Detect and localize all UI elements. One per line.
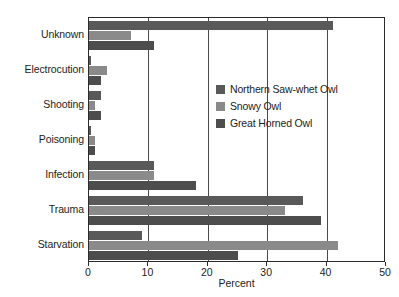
bar-group	[89, 193, 384, 228]
x-axis-ticks: 01020304050	[88, 262, 385, 278]
bar	[89, 56, 91, 65]
bar	[89, 126, 91, 135]
x-axis-title: Percent	[88, 277, 385, 289]
bar	[89, 171, 154, 180]
bar-track	[89, 56, 384, 65]
bar	[89, 206, 285, 215]
bar-track	[89, 66, 384, 75]
bar-track	[89, 181, 384, 190]
bar	[89, 91, 101, 100]
y-axis-tick-label: Starvation	[0, 239, 84, 250]
bar	[89, 136, 95, 145]
bar-track	[89, 216, 384, 225]
chart-figure: UnknownElectrocutionShootingPoisoningInf…	[0, 0, 399, 297]
chart-legend: Northern Saw-whet OwlSnowy OwlGreat Horn…	[216, 84, 338, 129]
bar	[89, 41, 154, 50]
legend-label: Great Horned Owl	[230, 118, 312, 129]
bar-track	[89, 241, 384, 250]
bar	[89, 241, 338, 250]
y-axis-labels: UnknownElectrocutionShootingPoisoningInf…	[0, 17, 84, 262]
y-axis-tick-label: Electrocution	[0, 64, 84, 75]
bar-track	[89, 171, 384, 180]
bar-track	[89, 161, 384, 170]
y-axis-tick-label: Trauma	[0, 204, 84, 215]
bar-group	[89, 18, 384, 53]
bar	[89, 31, 131, 40]
bar	[89, 111, 101, 120]
legend-item: Snowy Owl	[216, 101, 338, 112]
bar-track	[89, 206, 384, 215]
bar-track	[89, 146, 384, 155]
bar-group	[89, 228, 384, 263]
bar	[89, 196, 303, 205]
bar	[89, 231, 142, 240]
bar-track	[89, 41, 384, 50]
legend-label: Northern Saw-whet Owl	[230, 84, 338, 95]
bar	[89, 101, 95, 110]
legend-label: Snowy Owl	[230, 101, 281, 112]
bar	[89, 66, 107, 75]
bar-track	[89, 251, 384, 260]
bar-track	[89, 21, 384, 30]
legend-swatch-icon	[216, 119, 225, 128]
legend-swatch-icon	[216, 102, 225, 111]
bar-track	[89, 31, 384, 40]
bar	[89, 216, 321, 225]
legend-item: Great Horned Owl	[216, 118, 338, 129]
bar-track	[89, 231, 384, 240]
legend-swatch-icon	[216, 85, 225, 94]
bars-layer	[89, 18, 384, 261]
bar	[89, 146, 95, 155]
bar	[89, 21, 333, 30]
y-axis-tick-label: Unknown	[0, 29, 84, 40]
bar-track	[89, 136, 384, 145]
bar	[89, 76, 101, 85]
bar	[89, 161, 154, 170]
bar-group	[89, 158, 384, 193]
bar-track	[89, 196, 384, 205]
y-axis-tick-label: Poisoning	[0, 134, 84, 145]
bar	[89, 181, 196, 190]
y-axis-tick-label: Shooting	[0, 99, 84, 110]
plot-area	[88, 17, 385, 262]
legend-item: Northern Saw-whet Owl	[216, 84, 338, 95]
bar	[89, 251, 238, 260]
y-axis-tick-label: Infection	[0, 169, 84, 180]
